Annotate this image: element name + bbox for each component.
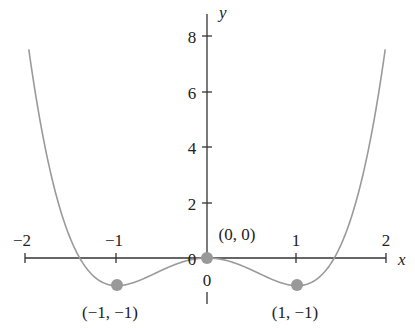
x-tick-label: 1	[292, 231, 301, 250]
y-tick-label: 4	[188, 139, 197, 158]
origin-label-below: 0	[203, 271, 212, 290]
point-label-origin: (0, 0)	[219, 225, 256, 244]
y-tick-label: 6	[188, 84, 197, 103]
origin-label-left: 0	[188, 250, 197, 269]
y-axis-label: y	[217, 3, 227, 22]
point-label-left: (−1, −1)	[82, 303, 138, 322]
point-minimum-left	[111, 279, 123, 291]
chart-canvas: −2 −1 1 2 8 6 4 2 0 0 y x (−1, −1) (0, 0…	[0, 0, 415, 328]
y-tick-label: 8	[188, 28, 197, 47]
x-tick-label: −2	[13, 231, 31, 250]
x-axis-label: x	[397, 250, 406, 269]
x-tick-label: 2	[382, 231, 391, 250]
y-tick-label: 2	[188, 195, 197, 214]
point-label-right: (1, −1)	[272, 303, 318, 322]
point-minimum-right	[291, 279, 303, 291]
point-origin	[201, 252, 213, 264]
x-tick-label: −1	[105, 231, 123, 250]
